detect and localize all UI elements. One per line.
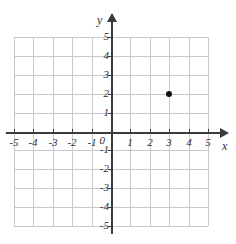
x-axis-tick [53, 129, 54, 134]
x-axis-label-neg5: -5 [5, 137, 23, 148]
y-axis-title: y [97, 14, 102, 26]
data-point-marker [166, 91, 172, 97]
x-axis-label-neg2: -2 [63, 137, 81, 148]
x-axis-tick [72, 129, 73, 134]
y-axis-label-neg5: -5 [93, 220, 109, 231]
x-axis-label-5: 5 [199, 137, 217, 148]
x-axis-tick [14, 129, 15, 134]
x-axis-label-neg4: -4 [24, 137, 42, 148]
x-axis-tick [208, 129, 209, 134]
y-axis-label-neg3: -3 [93, 182, 109, 193]
y-axis-label-neg1: -1 [93, 144, 109, 155]
y-axis-label-2: 2 [93, 88, 109, 99]
x-axis-label-2: 2 [141, 137, 159, 148]
y-axis-label-4: 4 [93, 50, 109, 61]
x-axis-title: x [222, 140, 227, 152]
y-axis-label-5: 5 [93, 31, 109, 42]
x-axis-tick [92, 129, 93, 134]
y-axis-line [111, 22, 113, 234]
x-axis-label-4: 4 [180, 137, 198, 148]
x-axis-label-1: 1 [121, 137, 139, 148]
x-axis-tick [130, 129, 131, 134]
coordinate-plane-plot: -5-4-3-2-101234554321-1-2-3-4-5yx [0, 0, 236, 244]
y-axis-label-neg2: -2 [93, 163, 109, 174]
y-axis-label-1: 1 [93, 107, 109, 118]
y-axis-label-3: 3 [93, 69, 109, 80]
x-axis-tick [189, 129, 190, 134]
x-axis-label-neg3: -3 [44, 137, 62, 148]
y-axis-arrowhead [107, 13, 117, 22]
x-axis-tick [33, 129, 34, 134]
x-axis-tick [169, 129, 170, 134]
x-axis-arrowhead [220, 128, 229, 138]
y-axis-label-neg4: -4 [93, 201, 109, 212]
coordinate-plane-screenshot: ·· ···· ·· ·· ··· -5-4-3-2-101234554321-… [0, 0, 236, 244]
x-axis-tick [150, 129, 151, 134]
x-axis-label-3: 3 [160, 137, 178, 148]
